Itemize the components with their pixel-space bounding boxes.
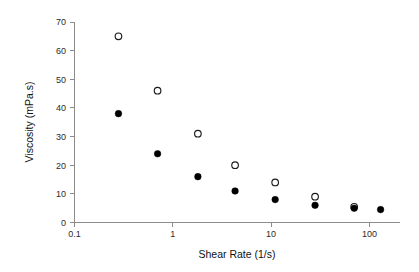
data-point — [312, 202, 319, 209]
y-tick-label: 20 — [56, 161, 66, 171]
data-point — [272, 196, 279, 203]
data-point — [377, 206, 384, 213]
x-tick-label: 1 — [170, 229, 175, 239]
data-point — [115, 110, 122, 117]
y-tick-label: 60 — [56, 46, 66, 56]
data-point — [154, 150, 161, 157]
x-tick-label: 0.1 — [68, 229, 81, 239]
y-axis-title: Viscosity (mPa.s) — [23, 82, 35, 163]
data-point — [232, 188, 239, 195]
y-tick-label: 70 — [56, 17, 66, 27]
y-tick-label: 50 — [56, 75, 66, 85]
y-tick-label: 30 — [56, 132, 66, 142]
y-tick-label: 10 — [56, 189, 66, 199]
data-point — [351, 205, 358, 212]
x-tick-label: 10 — [266, 229, 276, 239]
y-tick-label: 40 — [56, 103, 66, 113]
chart-figure: 010203040506070 0.1110100 Shear Rate (1/… — [0, 0, 419, 272]
x-tick-label: 100 — [362, 229, 377, 239]
y-tick-label: 0 — [61, 218, 66, 228]
data-point — [195, 173, 202, 180]
x-axis-title: Shear Rate (1/s) — [198, 248, 275, 260]
scatter-plot: 010203040506070 0.1110100 Shear Rate (1/… — [0, 0, 419, 272]
